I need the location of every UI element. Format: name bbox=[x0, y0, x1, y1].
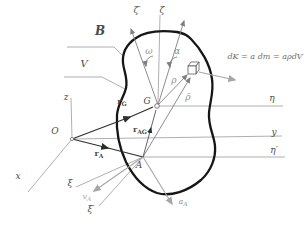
diagram-canvas: B V z x y O ζ′ ζ η η′ ξ ξ′ G A ω α ρ ρ̄ … bbox=[0, 0, 306, 227]
label-omega: ω bbox=[145, 47, 152, 56]
label-a-A: aA bbox=[178, 198, 187, 207]
label-x-axis: x bbox=[15, 172, 20, 181]
label-point-G: G bbox=[143, 97, 150, 106]
dK-force-vector bbox=[199, 72, 235, 80]
label-body-B: B bbox=[95, 25, 105, 37]
zeta-prime-axis-arrow bbox=[131, 29, 158, 105]
r-G-vector bbox=[72, 117, 130, 139]
label-r-A: rA bbox=[95, 149, 104, 159]
label-zeta-prime-axis: ζ′ bbox=[134, 6, 141, 15]
r-AG-vector-tail bbox=[151, 110, 156, 128]
point-G-marker bbox=[155, 104, 160, 109]
label-xi-axis: ξ bbox=[68, 179, 73, 188]
label-eta-axis: η bbox=[269, 94, 274, 103]
x-axis-line bbox=[28, 139, 72, 192]
y-axis-line bbox=[72, 136, 282, 139]
label-volume-V: V bbox=[80, 59, 87, 69]
label-v-A: vA bbox=[83, 193, 92, 202]
label-eta-prime-axis: η′ bbox=[270, 146, 277, 155]
label-r-G: rG bbox=[117, 97, 126, 107]
label-origin-O: O bbox=[51, 127, 58, 136]
label-z-axis: z bbox=[64, 93, 69, 102]
label-zeta-axis: ζ bbox=[160, 6, 165, 15]
point-O-marker bbox=[70, 137, 73, 140]
label-leader-V bbox=[64, 77, 125, 89]
label-rho: ρ bbox=[171, 76, 176, 85]
r-A-vector bbox=[72, 139, 108, 148]
a-A-vector bbox=[143, 157, 172, 204]
label-xi-prime-axis: ξ′ bbox=[87, 205, 94, 214]
mass-element-cube bbox=[188, 62, 199, 74]
alpha-rotation-arc bbox=[170, 57, 177, 67]
label-rho-bar: ρ̄ bbox=[185, 93, 190, 102]
alpha-axis-arrow bbox=[158, 21, 184, 105]
label-point-A: A bbox=[136, 161, 143, 170]
z-axis-line bbox=[71, 98, 72, 139]
label-y-axis: y bbox=[271, 128, 276, 137]
label-leader-B bbox=[67, 47, 124, 57]
diagram-svg bbox=[0, 0, 306, 227]
label-r-AG: rAG bbox=[133, 125, 147, 135]
label-alpha: α bbox=[174, 47, 180, 56]
omega-rotation-arc bbox=[146, 56, 153, 66]
r-G-vector-tail bbox=[130, 107, 153, 117]
zeta-axis-line bbox=[158, 15, 160, 104]
rigid-body-outline bbox=[117, 31, 215, 194]
label-mass-element-formula: dK = a dm = aρdV bbox=[227, 53, 302, 61]
rho-bar-vector bbox=[143, 78, 190, 157]
r-A-vector-tail bbox=[108, 148, 143, 157]
